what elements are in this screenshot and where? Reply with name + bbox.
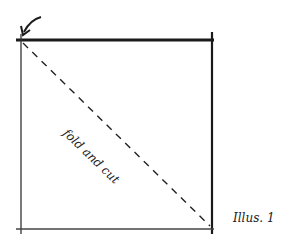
square-diagram: [0, 0, 291, 244]
curved-arrow-icon: [21, 17, 41, 35]
illustration-caption: Illus. 1: [233, 211, 275, 225]
fold-line: [23, 43, 210, 226]
illustration: fold and cut Illus. 1: [0, 0, 291, 244]
